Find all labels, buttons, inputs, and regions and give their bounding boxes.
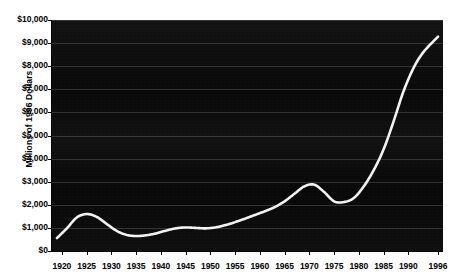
x-axis-tick-labels: 1920192519301935194019451950195519601965… <box>0 254 447 276</box>
x-axis-tick-mark <box>384 251 385 255</box>
x-axis-tick-mark <box>235 251 236 255</box>
y-axis-tick-label: $4,000 <box>2 154 48 163</box>
x-axis-tick-mark <box>62 251 63 255</box>
y-axis-tick-label: $10,000 <box>2 15 48 24</box>
y-axis-line <box>51 20 52 252</box>
x-axis-tick-mark <box>408 251 409 255</box>
y-axis-tick-label: $5,000 <box>2 131 48 140</box>
x-axis-tick-mark <box>285 251 286 255</box>
x-axis-tick-mark <box>359 251 360 255</box>
y-axis-tick-label: $6,000 <box>2 107 48 116</box>
data-line-series <box>52 20 443 251</box>
x-axis-tick-mark <box>161 251 162 255</box>
x-axis-tick-mark <box>111 251 112 255</box>
y-axis-tick-label: $7,000 <box>2 84 48 93</box>
x-axis-tick-mark <box>186 251 187 255</box>
y-axis-tick-label: $9,000 <box>2 38 48 47</box>
y-axis-tick-label: $2,000 <box>2 200 48 209</box>
x-axis-tick-mark <box>87 251 88 255</box>
y-axis-tick-label: $8,000 <box>2 61 48 70</box>
x-axis-tick-mark <box>136 251 137 255</box>
x-axis-tick-mark <box>334 251 335 255</box>
y-axis-tick-label: $1,000 <box>2 223 48 232</box>
plot-area <box>52 20 443 251</box>
x-axis-tick-mark <box>438 251 439 255</box>
x-axis-tick-mark <box>260 251 261 255</box>
y-axis-tick-labels: $10,000$9,000$8,000$7,000$6,000$5,000$4,… <box>0 0 48 276</box>
x-axis-tick-label: 1996 <box>418 261 452 271</box>
y-axis-tick-label: $3,000 <box>2 177 48 186</box>
x-axis-tick-mark <box>210 251 211 255</box>
x-axis-tick-mark <box>309 251 310 255</box>
